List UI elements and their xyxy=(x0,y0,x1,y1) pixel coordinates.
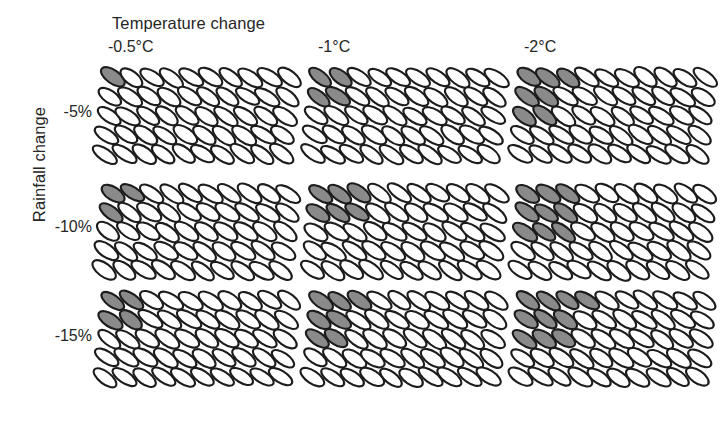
panel-glyph-grid xyxy=(97,285,308,397)
panel-glyph-grid xyxy=(305,178,516,290)
panel-glyph-grid xyxy=(513,285,723,397)
panel-cell-4 xyxy=(305,178,516,290)
column-header-0: -0.5°C xyxy=(108,38,154,56)
row-label-2: -15% xyxy=(24,327,92,345)
panel-cell-1 xyxy=(305,62,516,174)
row-label-1: -10% xyxy=(24,218,92,236)
panel-cell-6 xyxy=(97,285,308,397)
panel-cell-7 xyxy=(305,285,516,397)
panel-glyph-grid xyxy=(305,62,516,174)
panel-cell-3 xyxy=(97,178,308,290)
panel-glyph-grid xyxy=(513,178,723,290)
panel-glyph-grid xyxy=(513,62,723,174)
x-axis-title: Temperature change xyxy=(112,14,265,33)
panel-cell-5 xyxy=(513,178,723,290)
panel-glyph-grid xyxy=(97,178,308,290)
row-label-0: -5% xyxy=(24,103,92,121)
column-header-1: -1°C xyxy=(318,38,350,56)
panel-cell-0 xyxy=(97,62,308,174)
panel-cell-2 xyxy=(513,62,723,174)
column-header-2: -2°C xyxy=(524,38,556,56)
panel-glyph-grid xyxy=(97,62,308,174)
panel-cell-8 xyxy=(513,285,723,397)
panel-glyph-grid xyxy=(305,285,516,397)
